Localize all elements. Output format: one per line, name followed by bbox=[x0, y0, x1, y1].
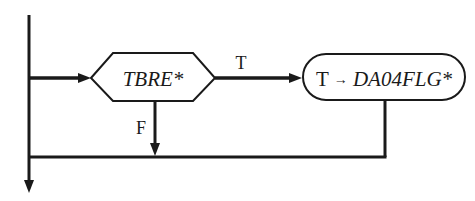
decision-node[interactable]: TBRE* bbox=[91, 53, 215, 101]
exit-arrow-icon bbox=[24, 180, 34, 193]
false-arrow-icon bbox=[150, 143, 160, 156]
flowchart-canvas: TBRE* T T → DA04FLG* F bbox=[0, 0, 475, 201]
action-prefix: T bbox=[316, 67, 329, 91]
decision-label: TBRE* bbox=[123, 67, 184, 91]
false-branch-label: F bbox=[136, 118, 146, 138]
entry-arrow-icon bbox=[78, 73, 91, 83]
true-branch-label: T bbox=[236, 53, 247, 73]
assign-arrow-icon: → bbox=[334, 72, 348, 87]
action-target: DA04FLG* bbox=[352, 67, 453, 91]
true-arrow-icon bbox=[289, 73, 302, 83]
action-node[interactable]: T → DA04FLG* bbox=[303, 54, 465, 100]
